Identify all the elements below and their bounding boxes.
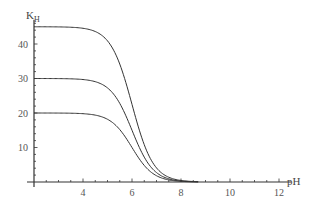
y-axis-label: KH (26, 9, 40, 24)
axis-ticks (34, 23, 279, 182)
x-tick-label: 10 (225, 187, 235, 198)
ph-dependence-chart: 468101210203040 KH pH (0, 0, 319, 207)
x-axis-label: pH (287, 175, 301, 187)
y-tick-label: 30 (18, 73, 28, 84)
x-tick-label: 8 (179, 187, 184, 198)
axis-tick-labels: 468101210203040 (18, 39, 284, 199)
y-tick-label: 10 (18, 142, 28, 153)
curve-kmax-45 (34, 27, 198, 182)
x-tick-label: 12 (274, 187, 284, 198)
x-tick-label: 6 (130, 187, 135, 198)
axes (27, 20, 291, 187)
y-tick-label: 20 (18, 108, 28, 119)
y-tick-label: 40 (18, 39, 28, 50)
curve-kmax-20 (34, 113, 198, 182)
x-tick-label: 4 (81, 187, 86, 198)
curve-kmax-30 (34, 79, 198, 182)
data-series (34, 27, 198, 182)
